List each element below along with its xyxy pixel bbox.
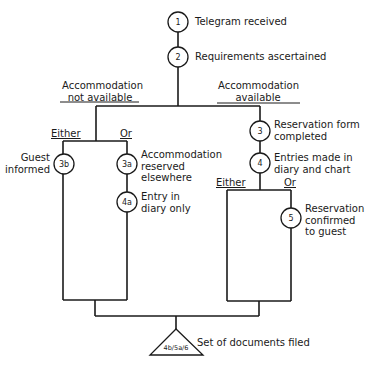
- right-or-label: Or: [284, 177, 296, 189]
- node-3a-label: Accommodation reserved elsewhere: [141, 149, 222, 184]
- left-branch-label: Accommodation not available: [62, 80, 138, 103]
- svg-text:1: 1: [175, 18, 180, 27]
- node-1-label: Telegram received: [195, 16, 287, 28]
- node-3b-label: Guest informed: [2, 152, 50, 175]
- node-4-label: Entries made in diary and chart: [274, 152, 353, 175]
- svg-text:3a: 3a: [122, 160, 132, 169]
- flowchart: 1 2 3 4 5 3a 4a 3b: [0, 0, 368, 365]
- node-3b: 3b: [54, 154, 74, 174]
- node-5-label: Reservation confirmed to guest: [305, 203, 364, 238]
- left-or-label: Or: [120, 128, 132, 140]
- node-2: 2: [168, 47, 188, 67]
- svg-text:4b/5a/6: 4b/5a/6: [164, 344, 189, 352]
- terminal-label: Set of documents filed: [197, 337, 310, 349]
- svg-text:3: 3: [257, 127, 262, 136]
- svg-text:4a: 4a: [122, 198, 132, 207]
- left-either-label: Either: [51, 128, 81, 140]
- node-3-label: Reservation form completed: [274, 119, 360, 142]
- node-4a-label: Entry in diary only: [141, 191, 191, 214]
- node-3: 3: [250, 121, 270, 141]
- node-4: 4: [250, 153, 270, 173]
- svg-text:4: 4: [257, 159, 262, 168]
- node-2-label: Requirements ascertained: [195, 51, 326, 63]
- node-3a: 3a: [117, 154, 137, 174]
- right-either-label: Either: [216, 177, 246, 189]
- svg-text:3b: 3b: [59, 160, 69, 169]
- svg-text:5: 5: [288, 214, 293, 223]
- node-5: 5: [281, 208, 301, 228]
- right-branch-label: Accommodation available: [218, 80, 298, 103]
- svg-text:2: 2: [175, 53, 180, 62]
- terminal-triangle: 4b/5a/6: [150, 329, 203, 355]
- node-4a: 4a: [117, 192, 137, 212]
- node-1: 1: [168, 12, 188, 32]
